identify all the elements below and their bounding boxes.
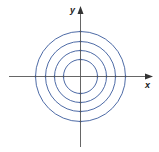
y-axis-arrowhead-icon xyxy=(78,6,84,14)
level-curves-diagram xyxy=(0,0,159,152)
x-axis-label: x xyxy=(145,81,150,90)
x-axis-arrowhead-icon xyxy=(145,74,153,80)
y-axis-label: y xyxy=(70,6,75,15)
